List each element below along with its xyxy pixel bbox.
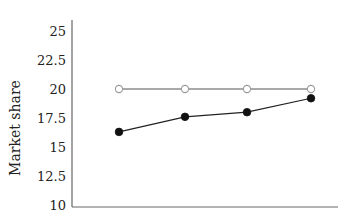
filled-circle-marker	[115, 128, 123, 136]
open-circle-marker	[243, 85, 250, 92]
y-tick-label: 17.5	[37, 111, 66, 126]
y-axis-title: Market share	[7, 80, 23, 176]
y-axis: 1012.51517.52022.525	[37, 20, 72, 213]
y-tick-label: 22.5	[37, 53, 66, 68]
y-tick-label: 10	[49, 198, 66, 213]
line-chart: 1012.51517.52022.525 Market share	[0, 0, 352, 224]
series	[115, 85, 314, 92]
series	[115, 94, 315, 135]
series-line	[119, 98, 311, 132]
filled-circle-marker	[243, 108, 251, 116]
open-circle-marker	[307, 85, 314, 92]
y-tick-label: 12.5	[37, 169, 66, 184]
open-circle-marker	[115, 85, 122, 92]
series-layer	[115, 85, 315, 135]
filled-circle-marker	[307, 94, 315, 102]
y-tick-label: 20	[49, 82, 66, 97]
filled-circle-marker	[181, 113, 189, 121]
open-circle-marker	[181, 85, 188, 92]
y-tick-label: 15	[49, 140, 66, 155]
y-tick-label: 25	[49, 24, 66, 39]
